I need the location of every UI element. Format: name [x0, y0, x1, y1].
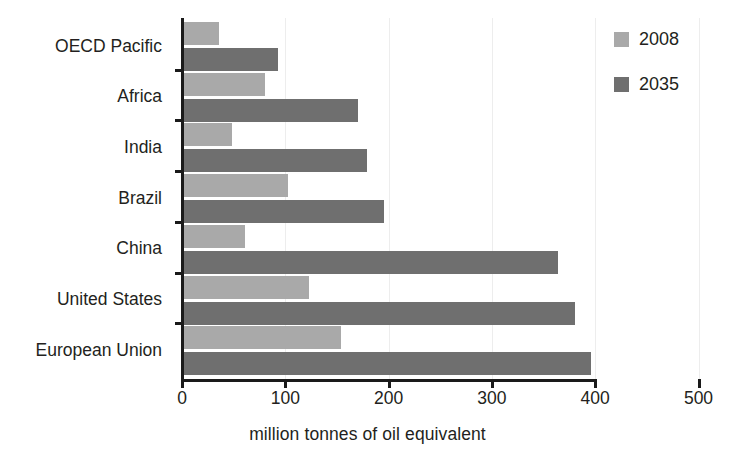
bar-2008-brazil: [182, 174, 288, 197]
category-label-european-union: European Union: [0, 342, 172, 360]
bar-2008-oecd-pacific: [182, 22, 219, 45]
bar-2035-china: [182, 251, 558, 274]
bar-2035-africa: [182, 99, 358, 122]
category-label-oecd-pacific: OECD Pacific: [0, 38, 172, 56]
bar-2008-united-states: [182, 276, 309, 299]
legend-label-2008: 2008: [639, 30, 679, 48]
x-tick-label: 0: [177, 390, 187, 408]
gridline: [389, 18, 390, 379]
x-tick-label: 500: [684, 390, 713, 408]
category-label-africa: Africa: [0, 88, 172, 106]
gridline: [595, 18, 596, 379]
bar-2035-european-union: [182, 352, 591, 375]
x-tick-label: 200: [374, 390, 403, 408]
legend-item: 2035: [614, 73, 724, 95]
bar-2035-brazil: [182, 200, 384, 223]
chart-figure: OECD PacificAfricaIndiaBrazilChinaUnited…: [0, 0, 735, 465]
x-tick-label: 100: [271, 390, 300, 408]
bar-2008-european-union: [182, 326, 341, 349]
legend-label-2035: 2035: [639, 75, 679, 93]
category-label-brazil: Brazil: [0, 190, 172, 208]
bar-2008-africa: [182, 73, 265, 96]
bar-2008-china: [182, 225, 245, 248]
x-tick-mark: [698, 379, 701, 388]
gridline: [285, 18, 286, 379]
y-axis-line: [181, 18, 184, 382]
x-axis-line: [181, 379, 595, 382]
bar-2035-oecd-pacific: [182, 48, 278, 71]
x-tick-label: 300: [477, 390, 506, 408]
category-label-india: India: [0, 139, 172, 157]
category-label-united-states: United States: [0, 291, 172, 309]
legend: 2008 2035: [614, 28, 724, 118]
bar-2008-india: [182, 123, 232, 146]
gridline: [492, 18, 493, 379]
legend-swatch-2035: [614, 77, 629, 92]
bar-2035-india: [182, 149, 367, 172]
bar-2035-united-states: [182, 302, 575, 325]
x-axis-title: million tonnes of oil equivalent: [0, 424, 735, 445]
legend-swatch-2008: [614, 32, 629, 47]
x-tick-label: 400: [581, 390, 610, 408]
legend-item: 2008: [614, 28, 724, 50]
category-label-china: China: [0, 240, 172, 258]
